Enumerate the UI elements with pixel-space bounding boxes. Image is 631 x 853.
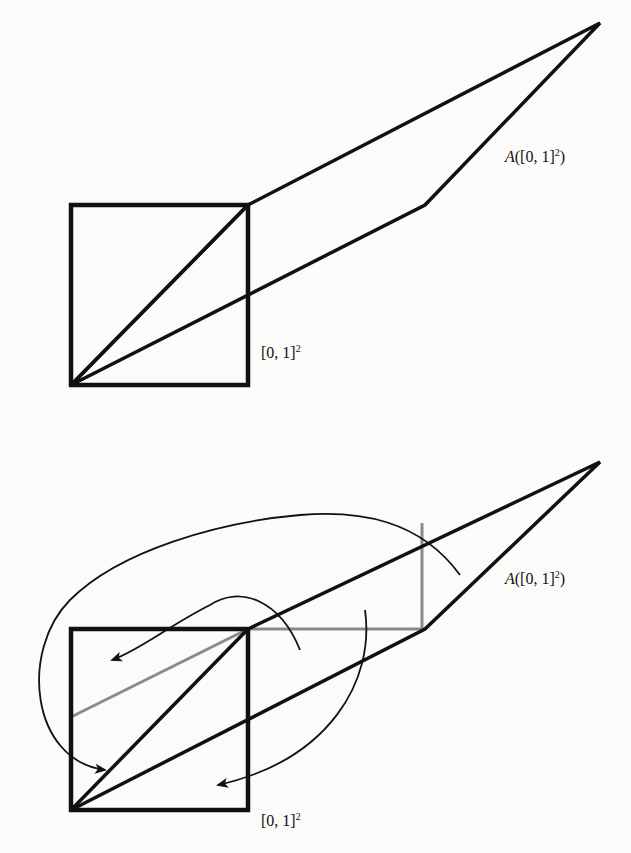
gray-diagonal-segment — [71, 629, 248, 717]
bottom-figure — [39, 462, 600, 810]
image-label-bottom: A([0, 1]2) — [505, 570, 565, 587]
figure-canvas — [0, 0, 631, 853]
top-figure — [71, 23, 600, 385]
map-symbol: A — [505, 570, 515, 587]
square-diagonal — [71, 629, 248, 810]
image-label-top: A([0, 1]2) — [505, 148, 565, 165]
map-symbol: A — [505, 148, 515, 165]
square-label-bottom: [0, 1]2 — [261, 812, 301, 829]
square-label-top: [0, 1]2 — [261, 344, 301, 361]
